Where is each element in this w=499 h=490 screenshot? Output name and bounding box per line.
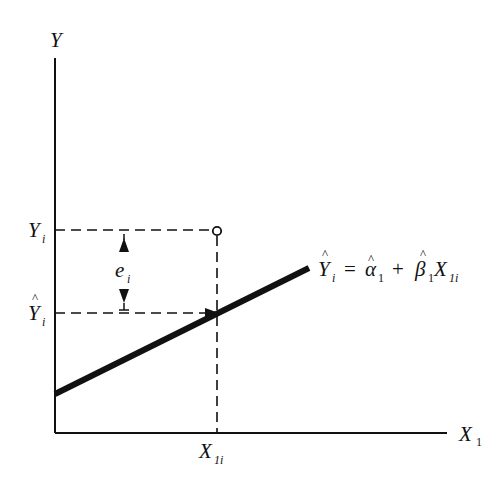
regression-equation: ^ Y i = ^ α 1 + ^ β 1 X 1i [318, 246, 458, 285]
regression-diagram: Y X 1 e i Y i ^ Y i X 1i ^ Y [0, 0, 499, 490]
svg-text:X: X [198, 439, 213, 463]
svg-text:Y: Y [28, 301, 42, 325]
svg-text:+: + [392, 257, 404, 281]
svg-text:i: i [42, 232, 45, 246]
residual-arrow-down [119, 289, 129, 310]
svg-text:Y: Y [28, 218, 42, 242]
regression-line [55, 268, 309, 394]
x-point-label: X 1i [198, 439, 223, 467]
svg-text:α: α [365, 257, 377, 281]
svg-text:e: e [115, 258, 124, 282]
svg-text:1i: 1i [449, 271, 458, 285]
residual-label: e i [115, 258, 130, 286]
svg-text:1i: 1i [214, 453, 223, 467]
y-axis-label: Y [50, 28, 64, 52]
svg-text:β: β [414, 257, 426, 281]
observed-y-label: Y i [28, 218, 45, 246]
fitted-y-label: ^ Y i [28, 290, 45, 329]
svg-text:X: X [433, 257, 448, 281]
svg-text:X: X [458, 422, 473, 446]
residual-arrow-up [119, 234, 129, 252]
svg-text:i: i [42, 315, 45, 329]
svg-text:i: i [127, 272, 130, 286]
x-axis-label: X 1 [458, 422, 482, 449]
observed-point [213, 227, 221, 235]
svg-text:1: 1 [378, 271, 384, 285]
svg-text:Y: Y [318, 257, 332, 281]
svg-text:1: 1 [476, 435, 482, 449]
svg-text:i: i [332, 271, 335, 285]
svg-text:=: = [344, 257, 356, 281]
